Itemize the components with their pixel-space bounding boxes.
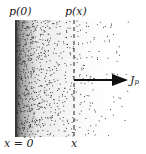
- label-px: p(x): [65, 6, 87, 17]
- label-p0: p(0): [9, 6, 32, 17]
- label-x0: x = 0: [4, 138, 33, 149]
- flux-subscript: p: [134, 78, 138, 86]
- diffusion-diagram: [0, 0, 146, 154]
- label-flux: Jp: [130, 75, 139, 86]
- label-x: x: [71, 138, 77, 149]
